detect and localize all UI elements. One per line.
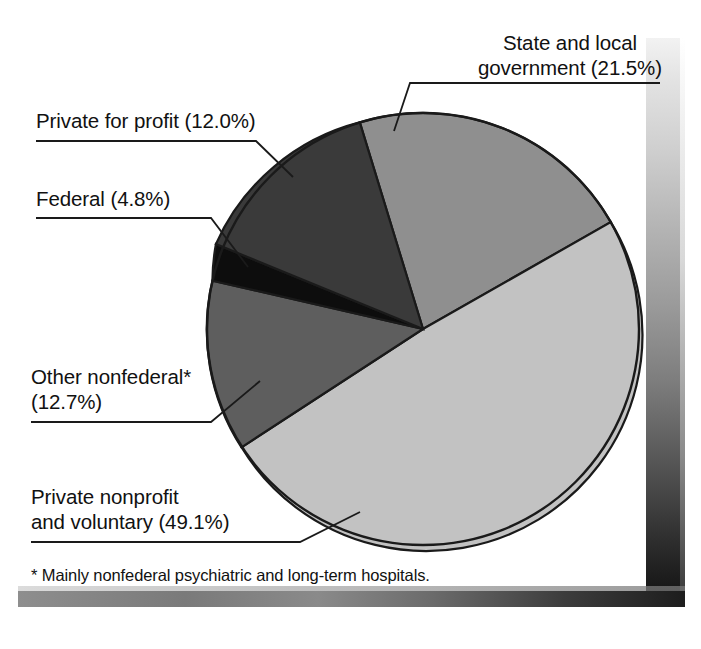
pie-chart-svg: [0, 0, 701, 649]
leader-line-private-for-profit: [36, 141, 293, 177]
slice-label-private-nonprofit-and-voluntary: Private nonprofit and voluntary (49.1%): [31, 484, 229, 534]
slice-label-line: Private for profit (12.0%): [36, 108, 256, 133]
slice-label-other-nonfederal: Other nonfederal* (12.7%): [31, 364, 191, 414]
slice-label-federal: Federal (4.8%): [36, 186, 170, 211]
slice-label-private-for-profit: Private for profit (12.0%): [36, 108, 256, 133]
slice-label-line: State and local: [478, 30, 662, 55]
slice-label-line: Federal (4.8%): [36, 186, 170, 211]
slice-label-line: (12.7%): [31, 389, 191, 414]
slice-label-line: Private nonprofit: [31, 484, 229, 509]
slice-label-line: and voluntary (49.1%): [31, 509, 229, 534]
pie-chart-figure: State and local government (21.5%) Priva…: [0, 0, 701, 649]
slice-label-state-and-local-government: State and local government (21.5%): [478, 30, 662, 80]
chart-footnote: * Mainly nonfederal psychiatric and long…: [31, 565, 430, 585]
slice-label-line: Other nonfederal*: [31, 364, 191, 389]
slice-label-line: government (21.5%): [478, 55, 662, 80]
